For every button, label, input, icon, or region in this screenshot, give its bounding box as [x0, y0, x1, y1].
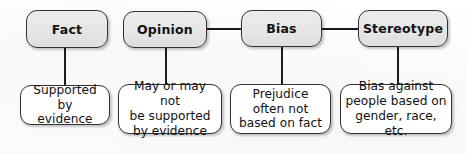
node-fact-detail[interactable]: Supported by evidence [20, 85, 110, 125]
node-fact[interactable]: Fact [26, 10, 108, 48]
node-stereotype-detail[interactable]: Bias against people based on gender, rac… [340, 84, 452, 134]
node-fact-detail-label: Supported by evidence [21, 83, 109, 128]
node-stereotype-detail-label: Bias against people based on gender, rac… [341, 79, 451, 139]
connector-bias-to-stereotype [322, 28, 358, 30]
node-bias[interactable]: Bias [241, 10, 322, 47]
node-bias-detail[interactable]: Prejudice often not based on fact [230, 84, 331, 134]
node-opinion[interactable]: Opinion [123, 11, 207, 48]
node-opinion-detail[interactable]: May or may not be supported by evidence [118, 84, 222, 134]
connector-opinion-to-bias [207, 28, 242, 30]
node-bias-detail-label: Prejudice often not based on fact [235, 87, 326, 132]
node-bias-label: Bias [262, 21, 301, 36]
node-opinion-label: Opinion [133, 22, 197, 37]
connector-fact-to-detail [64, 47, 66, 85]
node-fact-label: Fact [48, 22, 86, 37]
connector-bias-to-detail [281, 46, 283, 84]
node-opinion-detail-label: May or may not be supported by evidence [119, 79, 221, 139]
node-stereotype[interactable]: Stereotype [358, 10, 448, 47]
node-stereotype-label: Stereotype [359, 21, 447, 36]
flow-chart-diagram: Fact Opinion Bias Stereotype Supported b… [0, 0, 466, 154]
